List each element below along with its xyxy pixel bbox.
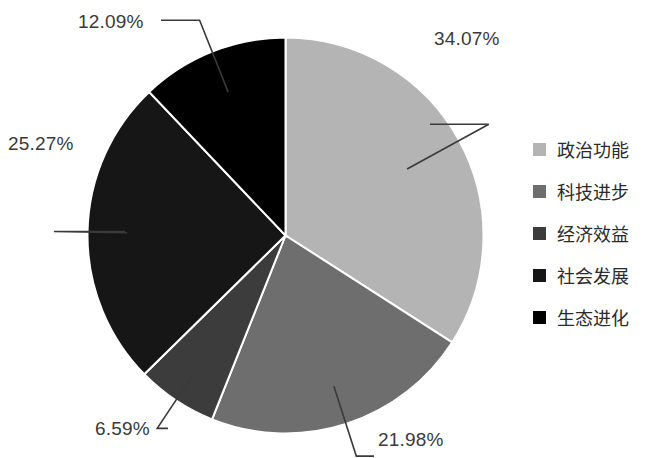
slice-percent-label-2: 6.59%	[95, 418, 150, 440]
legend-item-label: 科技进步	[557, 178, 629, 204]
legend-item[interactable]: 经济效益	[533, 212, 649, 254]
slice-percent-label-1: 21.98%	[378, 429, 444, 451]
legend-swatch-icon	[533, 143, 546, 156]
legend-swatch-icon	[533, 311, 546, 324]
legend-item[interactable]: 生态进化	[533, 296, 649, 338]
slice-percent-label-3: 25.27%	[8, 133, 74, 155]
legend-item[interactable]: 科技进步	[533, 170, 649, 212]
chart-legend: 政治功能科技进步经济效益社会发展生态进化	[533, 128, 649, 338]
pie-chart-figure: 34.07% 21.98% 6.59% 25.27% 12.09% 政治功能科技…	[0, 0, 649, 458]
legend-item[interactable]: 政治功能	[533, 128, 649, 170]
legend-item-label: 政治功能	[557, 136, 629, 162]
legend-swatch-icon	[533, 227, 546, 240]
slice-percent-label-4: 12.09%	[78, 11, 144, 33]
legend-swatch-icon	[533, 269, 546, 282]
legend-swatch-icon	[533, 185, 546, 198]
leader-line	[54, 232, 127, 233]
slice-percent-label-0: 34.07%	[434, 28, 500, 50]
legend-item-label: 社会发展	[557, 262, 629, 288]
pie-slices	[88, 38, 484, 434]
legend-item-label: 生态进化	[557, 304, 629, 330]
legend-item-label: 经济效益	[557, 220, 629, 246]
legend-item[interactable]: 社会发展	[533, 254, 649, 296]
